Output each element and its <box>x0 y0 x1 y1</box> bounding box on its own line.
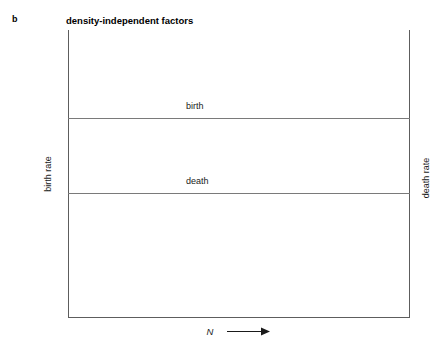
right-arrow-icon <box>227 327 271 336</box>
figure-panel: b density-independent factors birth deat… <box>0 0 444 354</box>
birth-rate-line <box>68 118 410 119</box>
y-axis-left-label: birth rate <box>44 156 53 192</box>
y-axis-right-line <box>409 30 410 318</box>
death-line-label: death <box>186 177 209 186</box>
death-rate-line <box>68 193 410 194</box>
panel-letter: b <box>12 15 18 24</box>
chart-title: density-independent factors <box>66 16 193 26</box>
birth-line-label: birth <box>186 102 204 111</box>
y-axis-left-line <box>68 30 69 318</box>
x-axis-line <box>68 317 410 318</box>
x-axis-label: N <box>207 327 214 337</box>
plot-area: birth death birth rate death rate N <box>68 30 410 318</box>
y-axis-right-label: death rate <box>422 158 431 199</box>
x-axis-title-group: N <box>68 327 410 337</box>
